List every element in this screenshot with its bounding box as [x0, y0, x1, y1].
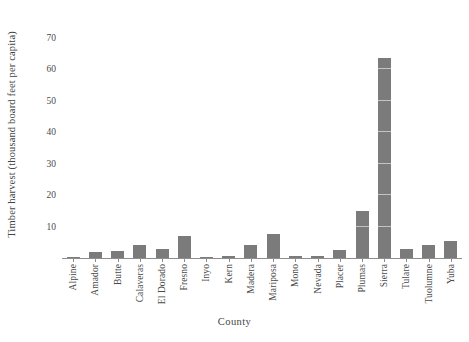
x-axis-label-text: Fresno [179, 264, 189, 290]
plot-area [62, 20, 462, 258]
x-axis-tickmark-calaveras [140, 258, 141, 262]
x-axis-tickmark-madera [251, 258, 252, 262]
x-axis-tickmark-tulare [406, 258, 407, 262]
bar-band [378, 131, 391, 132]
x-axis-label-text: Alpine [68, 264, 78, 290]
y-axis-tick-40: 40 [34, 127, 56, 137]
x-axis-label-yuba: Yuba [444, 264, 458, 320]
x-axis-label-text: Plumas [357, 264, 367, 293]
x-axis-tickmark-mono [295, 258, 296, 262]
x-axis-label-placer: Placer [333, 264, 347, 320]
bar-fresno [178, 236, 191, 258]
x-axis-label-text: Inyo [201, 264, 211, 282]
y-axis-tick-labels: 10203040506070 [24, 0, 56, 342]
x-axis-label-mono: Mono [288, 264, 302, 320]
x-axis-label-inyo: Inyo [199, 264, 213, 320]
y-axis-tick-10: 10 [34, 222, 56, 232]
bar-band [378, 194, 391, 195]
x-axis-label-fresno: Fresno [177, 264, 191, 320]
x-axis-tickmark-amador [95, 258, 96, 262]
x-axis-tickmark-nevada [318, 258, 319, 262]
x-axis-label-butte: Butte [111, 264, 125, 320]
x-axis-label-calaveras: Calaveras [133, 264, 147, 320]
x-axis-label-text: Tulare [401, 264, 411, 289]
x-axis-label-text: Placer [335, 264, 345, 288]
x-axis-tickmark-alpine [73, 258, 74, 262]
x-axis-label-sierra: Sierra [377, 264, 391, 320]
x-axis-tickmark-butte [118, 258, 119, 262]
y-axis-tick-50: 50 [34, 96, 56, 106]
bar-band [378, 226, 391, 227]
timber-harvest-bar-chart: Timber harvest (thousand board feet per … [0, 0, 469, 342]
x-axis-label-text: Kern [224, 264, 234, 283]
bar-sierra [378, 58, 391, 258]
bar-tulare [400, 249, 413, 258]
x-axis-tickmark-yuba [451, 258, 452, 262]
x-axis-label-mariposa: Mariposa [266, 264, 280, 320]
bar-band [378, 163, 391, 164]
bar-el-dorado [156, 249, 169, 258]
bar-band [378, 100, 391, 101]
x-axis-label-text: Madera [246, 264, 256, 294]
x-axis-tickmark-tuolumne [429, 258, 430, 262]
x-axis-label-text: Yuba [446, 264, 456, 284]
x-axis-tickmark-placer [340, 258, 341, 262]
bar-mariposa [267, 234, 280, 258]
x-axis-tickmark-kern [229, 258, 230, 262]
bar-yuba [444, 241, 457, 258]
x-axis-label-nevada: Nevada [311, 264, 325, 320]
y-axis-tick-60: 60 [34, 64, 56, 74]
bar-band [378, 68, 391, 69]
bar-tuolumne [422, 245, 435, 258]
x-axis-tickmark-plumas [362, 258, 363, 262]
x-axis-label-text: Nevada [313, 264, 323, 294]
bar-madera [244, 245, 257, 258]
x-axis-label-plumas: Plumas [355, 264, 369, 320]
x-axis-tickmark-fresno [184, 258, 185, 262]
x-axis-tickmark-sierra [384, 258, 385, 262]
y-axis-tick-20: 20 [34, 190, 56, 200]
bar-placer [333, 250, 346, 258]
x-axis-label-madera: Madera [244, 264, 258, 320]
y-axis-title: Timber harvest (thousand board feet per … [0, 0, 22, 268]
x-axis-label-text: Sierra [379, 264, 389, 287]
y-axis-title-text: Timber harvest (thousand board feet per … [6, 31, 17, 238]
x-axis-label-tuolumne: Tuolumne [422, 264, 436, 320]
x-axis-label-alpine: Alpine [66, 264, 80, 320]
x-axis-label-kern: Kern [222, 264, 236, 320]
x-axis-tickmark-mariposa [273, 258, 274, 262]
x-axis-label-text: Mono [290, 264, 300, 287]
x-axis-label-text: El Dorado [157, 264, 167, 304]
x-axis-label-amador: Amador [88, 264, 102, 320]
x-axis-label-text: Butte [113, 264, 123, 285]
x-axis-tickmark-inyo [206, 258, 207, 262]
x-axis-line [62, 258, 462, 259]
y-axis-tick-30: 30 [34, 159, 56, 169]
x-axis-label-el-dorado: El Dorado [155, 264, 169, 320]
x-axis-label-text: Tuolumne [424, 264, 434, 304]
x-axis-label-text: Amador [90, 264, 100, 296]
x-axis-tickmark-el-dorado [162, 258, 163, 262]
x-axis-label-text: Mariposa [268, 264, 278, 301]
bar-calaveras [133, 245, 146, 258]
bar-butte [111, 251, 124, 258]
bar-band [356, 226, 369, 227]
bar-plumas [356, 211, 369, 258]
y-axis-tick-70: 70 [34, 33, 56, 43]
x-axis-label-text: Calaveras [135, 264, 145, 302]
x-axis-label-tulare: Tulare [399, 264, 413, 320]
